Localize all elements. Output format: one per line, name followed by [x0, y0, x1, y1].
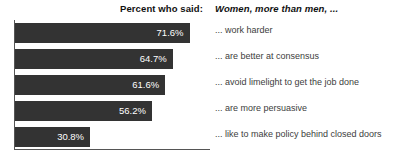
bar-value-label: 30.8% [57, 127, 84, 147]
bar-value-label: 64.7% [140, 49, 167, 69]
bar: 56.2% [15, 101, 152, 121]
bar-value-label: 61.6% [132, 75, 159, 95]
category-label-list: ... work harder... are better at consens… [215, 20, 396, 150]
plot-area: 71.6%64.7%61.6%56.2%30.8% [14, 20, 210, 150]
bar: 61.6% [15, 75, 165, 95]
category-label: ... avoid limelight to get the job done [215, 72, 396, 92]
x-axis-line [14, 149, 210, 150]
bar: 64.7% [15, 49, 173, 69]
bar: 71.6% [15, 23, 190, 43]
bar-value-label: 56.2% [119, 101, 146, 121]
category-label: ... work harder [215, 20, 396, 40]
bar-series: 71.6%64.7%61.6%56.2%30.8% [15, 23, 210, 148]
category-label: ... are better at consensus [215, 46, 396, 66]
bar-chart-figure: Percent who said: Women, more than men, … [0, 0, 396, 157]
bar-row: 71.6% [15, 23, 210, 43]
bar: 30.8% [15, 127, 90, 147]
category-label: ... like to make policy behind closed do… [215, 124, 396, 144]
bar-row: 61.6% [15, 75, 210, 95]
bar-row: 56.2% [15, 101, 210, 121]
chart-header: Percent who said: Women, more than men, … [0, 3, 396, 17]
category-label: ... are more persuasive [215, 98, 396, 118]
chart-header-right-label: Women, more than men, ... [215, 3, 338, 14]
bar-row: 30.8% [15, 127, 210, 147]
chart-header-left-label: Percent who said: [0, 3, 203, 14]
bar-row: 64.7% [15, 49, 210, 69]
bar-value-label: 71.6% [157, 23, 184, 43]
